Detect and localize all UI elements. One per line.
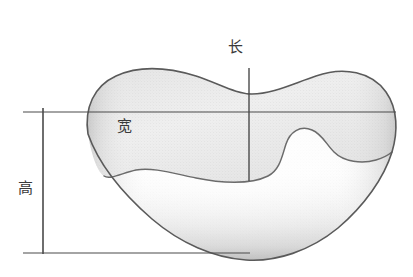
length-label: 长 (228, 39, 243, 54)
bean-body-group (80, 60, 405, 270)
bean-diagram-svg (0, 0, 413, 277)
width-label: 宽 (117, 118, 132, 133)
height-label: 高 (18, 180, 33, 195)
bean-measurement-figure: 长 宽 高 (0, 0, 413, 277)
